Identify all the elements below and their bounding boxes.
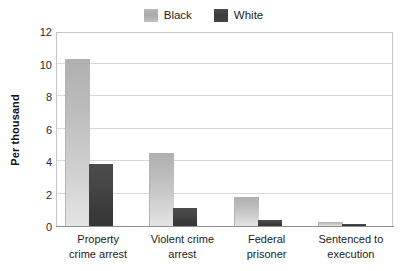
bar-white[interactable]	[89, 164, 113, 226]
bar-black[interactable]	[149, 153, 174, 226]
y-axis-tick-labels: 024681012	[26, 26, 52, 234]
legend-item-black[interactable]: Black	[144, 9, 192, 22]
x-tick-label-line: arrest	[140, 247, 224, 262]
x-tick-label-line: Sentenced to	[309, 232, 393, 247]
x-tick-label-line: execution	[309, 247, 393, 262]
legend-swatch-icon	[144, 9, 158, 22]
y-tick-label: 6	[26, 124, 52, 136]
y-axis-title: Per thousand	[6, 32, 24, 228]
x-tick-label-line: prisoner	[225, 247, 309, 262]
x-tick-label: Federalprisoner	[225, 232, 309, 262]
y-tick-label: 8	[26, 91, 52, 103]
x-tick-label-line: crime arrest	[56, 247, 140, 262]
x-tick-label: Propertycrime arrest	[56, 232, 140, 262]
legend-item-label: White	[234, 9, 263, 22]
y-tick-label: 4	[26, 156, 52, 168]
legend-swatch-icon	[214, 9, 228, 22]
plot-area	[56, 32, 393, 227]
x-tick-label: Sentenced toexecution	[309, 232, 393, 262]
chart-legend: BlackWhite	[0, 4, 407, 26]
bar-black[interactable]	[234, 197, 259, 226]
y-tick-label: 0	[26, 221, 52, 233]
bar-black[interactable]	[65, 59, 90, 226]
bar-group	[226, 33, 310, 226]
bar-group	[57, 33, 141, 226]
bar-white[interactable]	[173, 208, 197, 226]
y-axis-title-text: Per thousand	[9, 94, 21, 166]
x-axis-baseline	[56, 226, 394, 227]
x-tick-label-line: Property	[56, 232, 140, 247]
x-tick-label-line: Violent crime	[140, 232, 224, 247]
bar-group	[141, 33, 225, 226]
legend-item-white[interactable]: White	[214, 9, 263, 22]
bar-chart: BlackWhite Per thousand 024681012 Proper…	[0, 0, 407, 271]
x-tick-label: Violent crimearrest	[140, 232, 224, 262]
legend-item-label: Black	[164, 9, 192, 22]
y-tick-label: 10	[26, 59, 52, 71]
bars-layer	[57, 33, 392, 226]
x-tick-label-line: Federal	[225, 232, 309, 247]
y-tick-label: 2	[26, 189, 52, 201]
x-axis-tick-labels: Propertycrime arrestViolent crimearrestF…	[56, 232, 393, 268]
y-tick-label: 12	[26, 26, 52, 38]
bar-group	[310, 33, 394, 226]
